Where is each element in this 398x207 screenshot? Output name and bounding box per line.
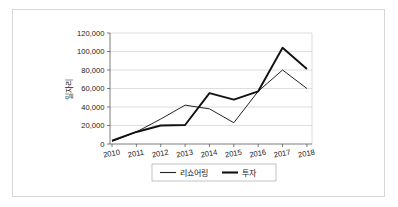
x-tick-label: 2017 bbox=[273, 148, 291, 160]
x-tick-label: 2013 bbox=[175, 148, 193, 160]
y-tick-label: 20,000 bbox=[81, 121, 104, 130]
x-axis-ticks: 201020112012201320142015201620172018 bbox=[102, 144, 315, 160]
y-tick-label: 100,000 bbox=[77, 47, 104, 56]
x-tick-label: 2015 bbox=[224, 148, 242, 160]
y-tick-label: 0 bbox=[100, 140, 104, 149]
x-tick-label: 2011 bbox=[127, 148, 145, 160]
y-axis-title: 일자리 bbox=[65, 79, 74, 100]
line-chart: 020,00040,00060,00080,000100,000120,000 … bbox=[0, 0, 398, 207]
y-tick-label: 80,000 bbox=[81, 66, 104, 75]
x-tick-label: 2012 bbox=[151, 148, 169, 160]
legend-label-reshoring: 리쇼어링 bbox=[180, 168, 208, 178]
chart-legend: 리쇼어링 투자 bbox=[152, 164, 276, 181]
y-tick-label: 60,000 bbox=[81, 84, 104, 93]
y-tick-label: 40,000 bbox=[81, 103, 104, 112]
y-tick-label: 120,000 bbox=[77, 29, 104, 38]
x-tick-label: 2016 bbox=[249, 148, 267, 160]
x-tick-label: 2010 bbox=[102, 148, 120, 160]
x-tick-label: 2018 bbox=[297, 148, 315, 160]
legend-label-investment: 투자 bbox=[242, 169, 257, 178]
y-axis-ticks: 020,00040,00060,00080,000100,000120,000 bbox=[77, 29, 110, 149]
x-tick-label: 2014 bbox=[200, 148, 218, 160]
